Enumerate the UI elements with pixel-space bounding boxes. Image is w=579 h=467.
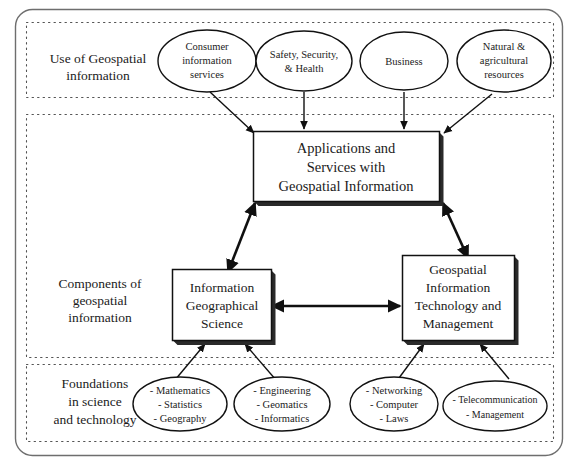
node-networking-computer-laws[interactable]: - Networking - Computer - Laws [350,377,438,431]
consumer-label-line2: information [182,55,232,66]
telecommunication-ellipse [443,381,547,431]
networking-label-line3: - Laws [380,413,409,424]
band-use-label-line2: information [66,68,130,83]
mathematics-label-line1: - Mathematics [150,385,210,396]
band-use-label-line1: Use of Geospatial [50,51,147,66]
applications-label-line2: Services with [307,159,386,175]
telecommunication-label-line1: - Telecommunication [453,394,538,405]
figure-root: Use of Geospatial information Components… [0,0,579,467]
mathematics-label-line3: - Geography [154,413,208,424]
technology-label-line2: Information [426,280,491,295]
natural-label-line3: resources [484,69,524,80]
applications-label-line3: Geospatial Information [279,178,415,194]
band-components-label-line1: Components of [59,276,142,291]
natural-label-line1: Natural & [483,41,525,52]
node-engineering-geomatics-informatics[interactable]: - Engineering - Geomatics - Informatics [234,377,330,431]
science-label-line3: Science [201,316,243,331]
engineering-label-line3: - Informatics [255,413,310,424]
technology-label-line3: Technology and [415,298,502,313]
networking-label-line2: - Computer [370,399,419,410]
safety-ellipse [256,31,352,91]
node-business[interactable]: Business [360,32,448,90]
node-consumer-information-services[interactable]: Consumer information services [158,30,256,92]
technology-label-line4: Management [423,316,494,331]
science-label-line1: Information [190,280,255,295]
engineering-label-line1: - Engineering [253,385,311,396]
consumer-label-line3: services [190,69,224,80]
band-foundations-label-line1: Foundations [62,376,129,391]
technology-label-line1: Geospatial [429,262,487,277]
diagram-canvas: Use of Geospatial information Components… [0,0,579,467]
safety-label-line2: & Health [285,63,325,74]
band-foundations-label-line3: and technology [54,412,137,427]
node-mathematics-statistics-geography[interactable]: - Mathematics - Statistics - Geography [133,377,227,431]
business-label-line1: Business [385,56,422,67]
natural-label-line2: agricultural [480,55,528,66]
telecommunication-label-line2: - Management [466,409,524,420]
band-foundations-label-line2: in science [68,394,122,409]
node-information-geographical-science[interactable]: Information Geographical Science [173,270,276,346]
networking-label-line1: - Networking [366,385,423,396]
engineering-label-line2: - Geomatics [256,399,307,410]
node-geospatial-information-technology-management[interactable]: Geospatial Information Technology and Ma… [403,256,519,346]
node-safety-security-health[interactable]: Safety, Security, & Health [256,31,352,91]
safety-label-line1: Safety, Security, [270,49,338,60]
consumer-label-line1: Consumer [185,41,229,52]
node-telecommunication-management[interactable]: - Telecommunication - Management [443,381,547,431]
band-components-label-line3: information [68,310,132,325]
band-components-label-line2: geospatial [73,293,128,308]
mathematics-label-line2: - Statistics [158,399,202,410]
applications-label-line1: Applications and [297,140,396,156]
science-label-line2: Geographical [186,298,259,313]
node-natural-agricultural-resources[interactable]: Natural & agricultural resources [457,30,551,92]
node-applications-and-services[interactable]: Applications and Services with Geospatia… [254,132,444,207]
